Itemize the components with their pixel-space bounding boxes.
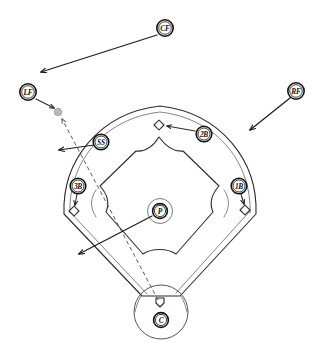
catcher-badge-label: C [159, 316, 164, 325]
ss-movement-arrow [59, 145, 94, 150]
outfield-fence-and-foul-lines [64, 106, 256, 296]
first-baseman-badge-label: 1B [235, 182, 243, 191]
field-svg-canvas: CF LF RF SS 2B [0, 0, 324, 347]
pitcher-movement-arrow [79, 216, 152, 254]
second-base-marker [154, 120, 164, 130]
infield-dirt-edge-left [92, 190, 97, 217]
second-baseman-badge-label: 2B [199, 130, 208, 139]
position-badge-p[interactable]: P [153, 204, 168, 219]
ball-marker-group [54, 108, 61, 115]
2b-to-second-base-arrow [167, 126, 195, 131]
rf-movement-arrow [250, 98, 290, 130]
lf-badge-label: LF [22, 88, 32, 97]
lf-to-ball-arrow [36, 99, 54, 108]
right-foul-line-inner [176, 211, 250, 293]
3b-to-third-base-arrow [75, 194, 77, 205]
position-badges-group: CF LF RF SS 2B [20, 20, 304, 328]
position-badge-2b[interactable]: 2B [196, 126, 212, 142]
ss-badge-label: SS [97, 138, 105, 147]
baseball-field-diagram: CF LF RF SS 2B [0, 0, 324, 347]
position-badge-3b[interactable]: 3B [70, 178, 86, 194]
first-base-marker [240, 205, 250, 215]
position-badge-rf[interactable]: RF [288, 83, 304, 99]
ball-icon [54, 108, 61, 115]
movement-arrows-group [36, 35, 290, 254]
cf-movement-arrow [41, 35, 157, 72]
third-base-marker [69, 206, 79, 216]
position-badge-cf[interactable]: CF [157, 20, 173, 36]
infield-grass-boundary [100, 137, 219, 254]
position-badge-c[interactable]: C [154, 313, 169, 328]
position-badge-ss[interactable]: SS [93, 134, 109, 150]
1b-to-first-base-arrow [241, 194, 244, 204]
cf-badge-label: CF [160, 24, 170, 33]
infield-dirt-edge-right [224, 190, 229, 217]
rf-badge-label: RF [290, 87, 301, 96]
third-baseman-badge-label: 3B [73, 182, 82, 191]
pitcher-badge-label: P [158, 207, 163, 216]
position-badge-1b[interactable]: 1B [231, 178, 247, 194]
position-badge-lf[interactable]: LF [20, 84, 36, 100]
